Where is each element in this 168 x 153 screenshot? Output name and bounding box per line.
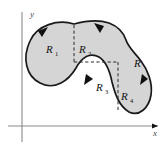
figure-container: y x R 1 R 2 R 3 R 4 R (0, 0, 168, 153)
svg-text:2: 2 (88, 50, 91, 57)
region-label-R3: R 3 (95, 81, 108, 95)
arrow-middle-left-icon (84, 74, 93, 85)
svg-text:R: R (45, 43, 53, 55)
region-diagram: y x R 1 R 2 R 3 R 4 R (0, 0, 168, 153)
svg-text:3: 3 (105, 88, 108, 95)
region-label-R: R (133, 57, 141, 69)
svg-text:R: R (78, 43, 86, 55)
svg-text:R: R (95, 81, 103, 93)
svg-text:1: 1 (55, 50, 58, 57)
x-axis-label: x (152, 128, 157, 138)
y-axis-label: y (29, 9, 34, 19)
svg-text:R: R (133, 57, 141, 69)
svg-text:R: R (120, 90, 128, 102)
